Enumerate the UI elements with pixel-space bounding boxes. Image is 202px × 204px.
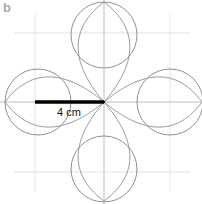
dimension-label: 4 cm [57,106,81,118]
figure-canvas [0,0,202,204]
panel-label: b [3,1,11,15]
center-point [103,101,105,103]
geometry-figure: b 4 cm [0,0,202,204]
